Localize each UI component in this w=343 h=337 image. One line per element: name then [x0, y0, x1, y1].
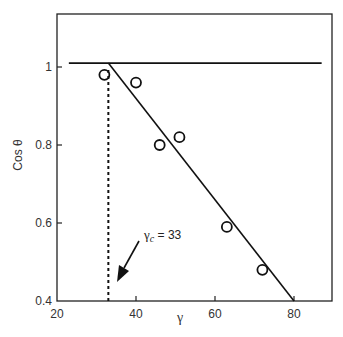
y-tick-label: 0.4: [35, 294, 52, 308]
x-tick-label: 40: [129, 307, 143, 321]
x-tick-label: 80: [287, 307, 301, 321]
data-points: [99, 70, 267, 275]
annotation-arrow: [124, 241, 139, 268]
x-tick-label: 20: [50, 307, 64, 321]
y-axis-label: Cos θ: [11, 139, 25, 171]
annotation: γc = 33: [117, 227, 182, 282]
x-tick-label: 60: [208, 307, 222, 321]
x-axis-label: γ: [176, 310, 183, 325]
arrow-head-icon: [117, 265, 129, 282]
y-tick-label: 0.8: [35, 138, 52, 152]
data-point: [155, 140, 165, 150]
data-point: [99, 70, 109, 80]
y-tick-label: 1: [45, 60, 52, 74]
annotation-text: γc = 33: [143, 227, 182, 244]
scatter-chart: 204060800.40.60.81 γc = 33 γ Cos θ: [0, 0, 343, 337]
chart-lines: [69, 63, 322, 301]
data-point: [222, 222, 232, 232]
axis-ticks: 204060800.40.60.81: [35, 60, 301, 321]
data-point: [174, 132, 184, 142]
y-tick-label: 0.6: [35, 216, 52, 230]
data-point: [131, 78, 141, 88]
plot-frame: [57, 14, 332, 301]
data-point: [257, 265, 267, 275]
